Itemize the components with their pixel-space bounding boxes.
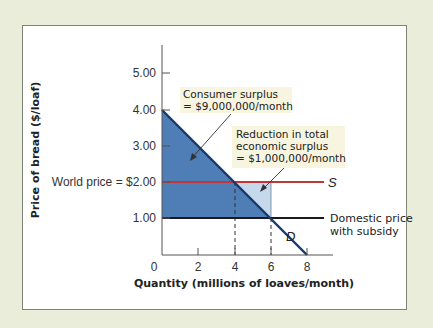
x-tick-8: 8: [304, 260, 311, 274]
x-tick-2: 2: [195, 260, 202, 274]
y-tick-1: 1.00: [133, 211, 157, 225]
chart: 5.00 4.00 3.00 1.00 World price = $2.00 …: [0, 0, 433, 328]
x-tick-6: 6: [268, 260, 275, 274]
consumer-surplus-label-1: Consumer surplus: [183, 88, 278, 100]
world-price-label: World price = $2.00: [52, 175, 156, 189]
x-tick-0: 0: [151, 260, 158, 274]
domestic-price-label-2: with subsidy: [330, 225, 399, 238]
supply-label: S: [328, 175, 337, 190]
surplus-reduction-label-2: economic surplus: [236, 140, 328, 152]
y-tick-3: 3.00: [133, 139, 157, 153]
surplus-reduction-label-3: = $1,000,000/month: [236, 152, 346, 164]
consumer-surplus-arrow: [192, 114, 231, 158]
y-tick-5: 5.00: [133, 66, 157, 80]
x-ticks: [198, 248, 307, 255]
consumer-surplus-label-2: = $9,000,000/month: [183, 100, 293, 112]
surplus-reduction-label-1: Reduction in total: [236, 128, 329, 140]
y-axis-title: Price of bread ($/loaf): [29, 82, 42, 218]
surplus-reduction-arrow: [263, 168, 284, 189]
y-tick-4: 4.00: [133, 103, 157, 117]
x-tick-4: 4: [232, 260, 239, 274]
demand-label: D: [286, 229, 295, 244]
x-axis-title: Quantity (millions of loaves/month): [134, 277, 354, 290]
domestic-price-label-1: Domestic price: [330, 212, 413, 225]
